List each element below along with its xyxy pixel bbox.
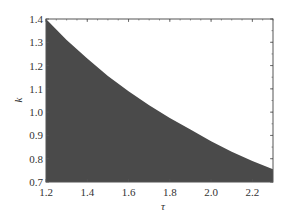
y-tick-label: 1.3	[29, 36, 43, 48]
y-axis-label: k	[12, 96, 24, 102]
x-axis-label: τ	[161, 200, 166, 212]
x-tick-label: 2.0	[204, 186, 218, 198]
y-tick-label: 1.0	[29, 106, 43, 118]
plot-area	[46, 19, 273, 182]
x-tick-label: 1.8	[163, 186, 177, 198]
x-tick-label: 1.4	[80, 186, 94, 198]
y-tick-label: 0.9	[29, 129, 43, 141]
chart: 1.21.41.61.82.02.2 0.70.80.91.01.11.21.3…	[0, 0, 286, 219]
shaded-region	[46, 19, 273, 182]
y-tick-label: 0.7	[29, 176, 43, 188]
y-tick-label: 1.4	[29, 13, 43, 25]
x-tick-label: 1.6	[122, 186, 136, 198]
y-tick-label: 1.2	[29, 60, 43, 72]
x-tick-label: 2.2	[245, 186, 259, 198]
y-tick-label: 1.1	[29, 83, 43, 95]
y-tick-label: 0.8	[29, 153, 43, 165]
